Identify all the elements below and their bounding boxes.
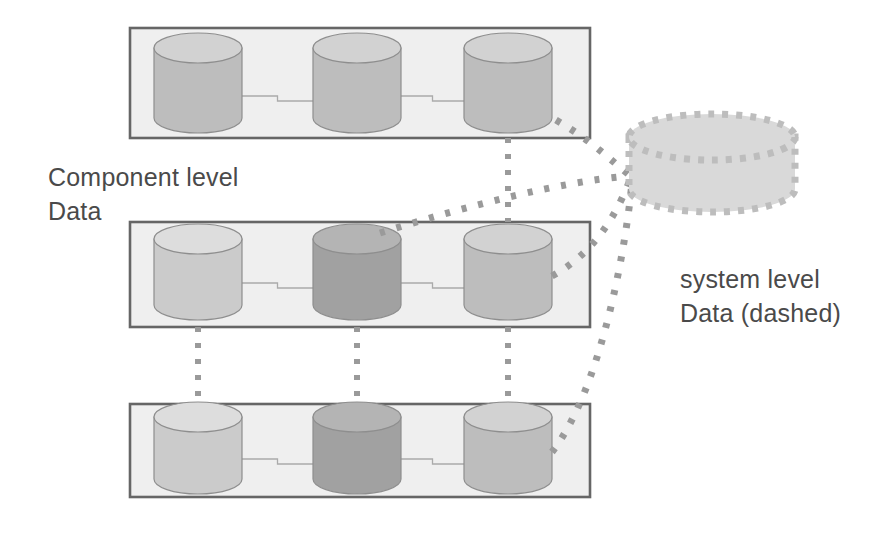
- cylinder-middle-3: [464, 224, 552, 320]
- cylinder-top-1-top: [154, 33, 242, 63]
- cylinder-middle-2-top: [313, 224, 401, 254]
- cylinder-bottom-2: [313, 402, 401, 494]
- cylinder-bottom-3: [464, 402, 552, 494]
- diagram-canvas: Component level Data system level Data (…: [0, 0, 889, 551]
- cylinder-bottom-1-top: [154, 402, 242, 432]
- cylinder-top-2: [313, 33, 401, 133]
- cylinder-top-2-top: [313, 33, 401, 63]
- cylinder-bottom-3-top: [464, 402, 552, 432]
- system-level-cylinder: [629, 114, 795, 212]
- cylinder-top-3-top: [464, 33, 552, 63]
- cylinder-bottom-2-top: [313, 402, 401, 432]
- cylinder-top-1: [154, 33, 242, 133]
- cylinder-middle-3-top: [464, 224, 552, 254]
- system-level-label: system level Data (dashed): [680, 262, 841, 330]
- cylinder-middle-1: [154, 224, 242, 320]
- cylinder-middle-2: [313, 224, 401, 320]
- system-level-cylinder-top: [629, 114, 795, 160]
- cylinder-bottom-1: [154, 402, 242, 494]
- cylinder-top-3: [464, 33, 552, 133]
- component-level-label: Component level Data: [48, 160, 239, 228]
- cylinder-middle-1-top: [154, 224, 242, 254]
